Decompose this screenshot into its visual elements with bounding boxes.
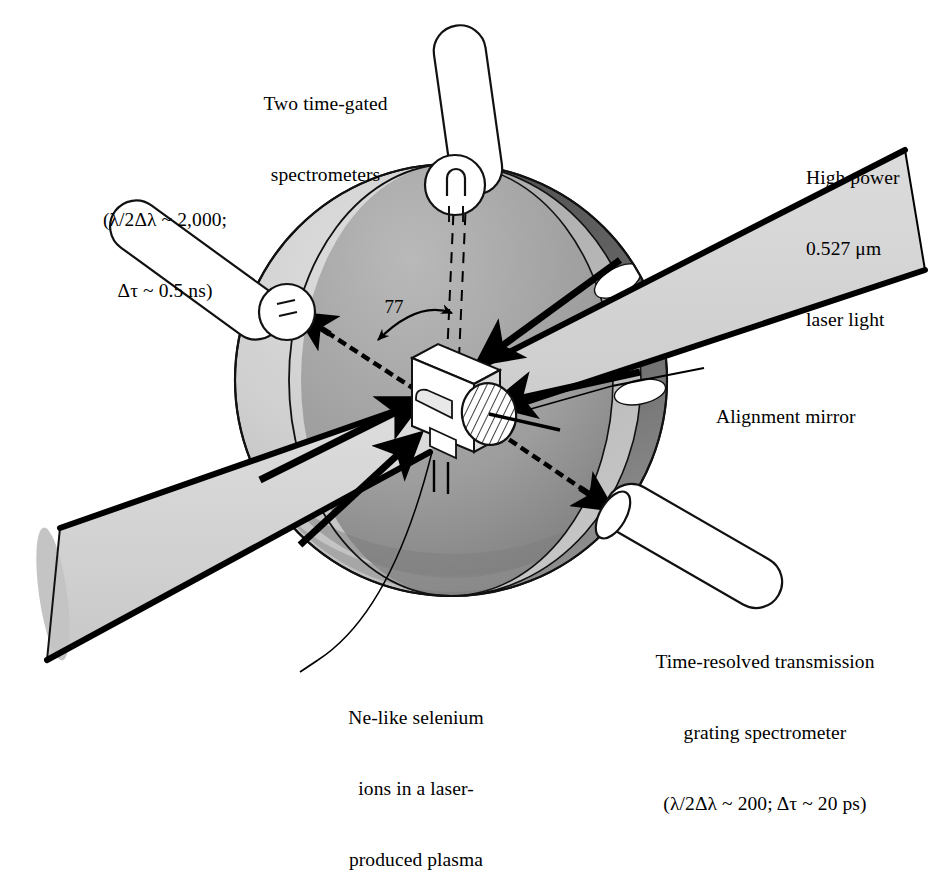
high-power-laser-light-label: High power 0.527 μm laser light (806, 118, 936, 380)
alignment-mirror-label: Alignment mirror (716, 357, 936, 476)
angle-value-label: 77 (376, 295, 412, 318)
transmission-grating-spectrometer-tube (589, 474, 792, 617)
ne-like-selenium-ions-label: Ne-like selenium ions in a laser- produc… (318, 658, 514, 874)
time-resolved-transmission-grating-label: Time-resolved transmission grating spect… (594, 602, 936, 864)
time-gated-resolution-label: (λ/2Δλ ~ 2,000; Δτ ~ 0.5 ns) (50, 160, 280, 350)
